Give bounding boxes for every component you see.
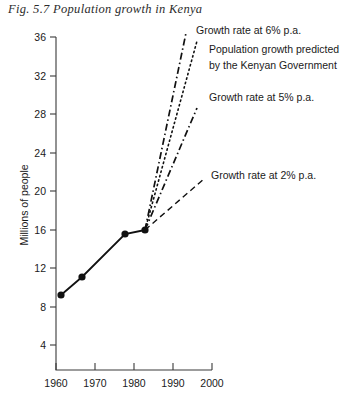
y-tick-label: 4 xyxy=(40,339,46,351)
data-point-marker xyxy=(78,273,85,280)
annotation-growth-2-percent: Growth rate at 2% p.a. xyxy=(211,169,316,181)
projection-line-government-prediction xyxy=(145,41,197,230)
figure-container: Fig. 5.7 Population growth in Kenya xyxy=(0,0,363,406)
data-point-marker xyxy=(57,291,64,298)
y-tick-label: 24 xyxy=(34,147,46,159)
x-tick-label: 1960 xyxy=(44,377,68,389)
population-growth-chart: 36 32 28 24 20 16 12 8 4 1960 1970 1980 … xyxy=(0,0,363,406)
x-tick-labels: 1960 1970 1980 1990 2000 xyxy=(44,377,224,389)
projection-line-5-percent xyxy=(145,108,197,230)
y-tick-labels: 36 32 28 24 20 16 12 8 4 xyxy=(34,31,46,351)
x-tick-label: 1980 xyxy=(122,377,146,389)
y-tick-marks xyxy=(50,37,56,345)
y-tick-label: 36 xyxy=(34,31,46,43)
projection-lines xyxy=(145,33,205,230)
data-point-marker xyxy=(141,226,148,233)
y-tick-label: 28 xyxy=(34,108,46,120)
x-tick-marks xyxy=(56,363,212,370)
annotation-labels: Growth rate at 6% p.a. Population growth… xyxy=(196,24,339,181)
x-tick-label: 2000 xyxy=(200,377,224,389)
series-line-recorded xyxy=(61,230,145,295)
x-tick-label: 1970 xyxy=(83,377,107,389)
annotation-government-prediction-line2: by the Kenyan Government xyxy=(209,59,337,71)
y-tick-label: 8 xyxy=(40,301,46,313)
annotation-growth-6-percent: Growth rate at 6% p.a. xyxy=(196,24,301,36)
y-tick-label: 12 xyxy=(34,262,46,274)
y-tick-label: 32 xyxy=(34,70,46,82)
y-tick-label: 16 xyxy=(34,224,46,236)
recorded-population-series xyxy=(57,226,148,298)
y-tick-label: 20 xyxy=(34,185,46,197)
y-axis-title: Millions of people xyxy=(18,164,30,245)
data-point-marker xyxy=(121,230,128,237)
axis-lines xyxy=(56,37,212,370)
annotation-government-prediction-line1: Population growth predicted xyxy=(209,43,339,55)
x-tick-label: 1990 xyxy=(161,377,185,389)
axis-group: 36 32 28 24 20 16 12 8 4 1960 1970 1980 … xyxy=(18,31,224,389)
annotation-growth-5-percent: Growth rate at 5% p.a. xyxy=(209,91,314,103)
